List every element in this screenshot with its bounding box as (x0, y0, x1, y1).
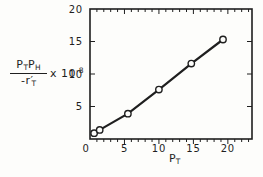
y-tick-label: 15 (69, 36, 83, 47)
data-point (188, 60, 194, 66)
y-axis-label: PTPH -r′T x 10-8 (10, 58, 84, 89)
fraction-denominator: -r′T (21, 74, 36, 87)
data-point (97, 127, 103, 133)
y-tick-label: 5 (76, 101, 83, 112)
fraction-numerator: PTPH (16, 58, 41, 71)
y-axis-fraction: PTPH -r′T (10, 58, 47, 89)
y-tick-label: 20 (69, 4, 83, 15)
data-point (125, 111, 131, 117)
x-tick-label: 10 (152, 143, 166, 154)
figure: 510152005101520 PTPH -r′T x 10-8 PT (0, 0, 263, 177)
plot-border (90, 9, 252, 139)
data-point (156, 86, 162, 92)
x-tick-label: 5 (121, 143, 128, 154)
x-tick-label: 0 (82, 143, 89, 154)
data-point (220, 36, 226, 42)
x-axis-label: PT (169, 152, 180, 166)
y-axis-multiplier: x 10-8 (50, 66, 84, 80)
x-tick-label: 15 (186, 143, 200, 154)
x-tick-label: 20 (221, 143, 235, 154)
